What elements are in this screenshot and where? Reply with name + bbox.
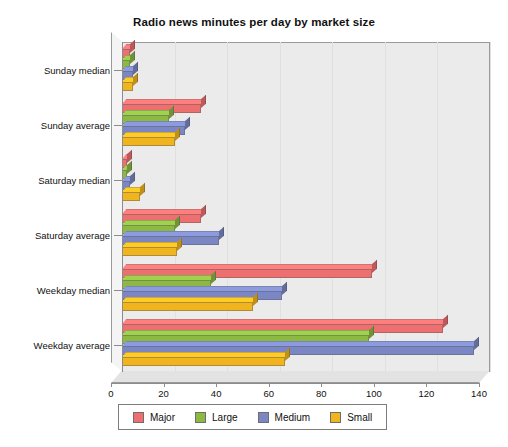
x-tick-100 bbox=[374, 383, 375, 387]
plot-area bbox=[122, 42, 490, 372]
bar-small-saturday-median bbox=[122, 192, 140, 201]
y-tick-0 bbox=[114, 345, 122, 346]
x-tick-label-80: 80 bbox=[316, 388, 327, 399]
y-tick-2 bbox=[114, 235, 122, 236]
x-axis-line bbox=[111, 383, 480, 384]
legend-swatch-large bbox=[195, 412, 206, 423]
legend-label: Small bbox=[347, 412, 372, 423]
legend-label: Major bbox=[150, 412, 175, 423]
x-tick-140 bbox=[479, 383, 480, 387]
x-tick-120 bbox=[426, 383, 427, 387]
bar-front-face bbox=[122, 192, 140, 201]
y-tick-4 bbox=[114, 125, 122, 126]
y-axis-line bbox=[122, 42, 123, 372]
legend-swatch-medium bbox=[258, 412, 269, 423]
bar-front-face bbox=[122, 247, 177, 256]
bar-front-face bbox=[122, 137, 175, 146]
x-tick-label-100: 100 bbox=[366, 388, 382, 399]
bar-small-weekday-median bbox=[122, 302, 253, 311]
bar-small-sunday-average bbox=[122, 137, 175, 146]
x-tick-40 bbox=[216, 383, 217, 387]
bar-small-saturday-average bbox=[122, 247, 177, 256]
legend-label: Large bbox=[212, 412, 238, 423]
chart-title: Radio news minutes per day by market siz… bbox=[0, 16, 508, 28]
y-category-label: Sunday median bbox=[44, 64, 110, 75]
x-tick-label-140: 140 bbox=[471, 388, 487, 399]
x-tick-label-120: 120 bbox=[418, 388, 434, 399]
y-category-label: Saturday median bbox=[38, 174, 110, 185]
legend-item-large[interactable]: Large bbox=[195, 412, 238, 423]
legend-swatch-small bbox=[330, 412, 341, 423]
y-tick-1 bbox=[114, 290, 122, 291]
legend-label: Medium bbox=[275, 412, 311, 423]
y-category-label: Saturday average bbox=[35, 229, 110, 240]
legend-item-medium[interactable]: Medium bbox=[258, 412, 311, 423]
legend-swatch-major bbox=[133, 412, 144, 423]
x-tick-label-0: 0 bbox=[108, 388, 113, 399]
legend-item-small[interactable]: Small bbox=[330, 412, 372, 423]
y-category-label: Weekday average bbox=[34, 339, 110, 350]
x-tick-label-60: 60 bbox=[263, 388, 274, 399]
bar-front-face bbox=[122, 302, 253, 311]
x-tick-0 bbox=[111, 383, 112, 387]
bar-front-face bbox=[122, 357, 285, 366]
x-tick-80 bbox=[321, 383, 322, 387]
legend-item-major[interactable]: Major bbox=[133, 412, 175, 423]
y-category-label: Sunday average bbox=[41, 119, 110, 130]
bar-front-face bbox=[122, 82, 133, 91]
y-tick-3 bbox=[114, 180, 122, 181]
x-tick-60 bbox=[269, 383, 270, 387]
y-tick-5 bbox=[114, 70, 122, 71]
gridline-x-140 bbox=[490, 42, 491, 372]
chart-legend: MajorLargeMediumSmall bbox=[118, 404, 387, 430]
bar-small-weekday-average bbox=[122, 357, 285, 366]
plot-floor-depth-face bbox=[111, 371, 489, 383]
x-tick-20 bbox=[164, 383, 165, 387]
x-tick-label-40: 40 bbox=[211, 388, 222, 399]
radio-news-bar-chart: Radio news minutes per day by market siz… bbox=[0, 0, 508, 447]
x-tick-label-20: 20 bbox=[158, 388, 169, 399]
y-category-label: Weekday median bbox=[37, 284, 110, 295]
bar-small-sunday-median bbox=[122, 82, 133, 91]
